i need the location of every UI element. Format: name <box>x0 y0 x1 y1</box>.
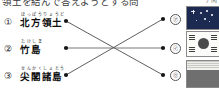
connector-lines <box>0 0 219 97</box>
left-node-2[interactable] <box>64 46 68 50</box>
left-node-3[interactable] <box>64 73 68 77</box>
right-node-3[interactable] <box>161 73 165 77</box>
left-node-1[interactable] <box>64 19 68 23</box>
right-node-1[interactable] <box>161 17 165 21</box>
right-node-2[interactable] <box>161 46 165 50</box>
worksheet-page: 領土を結んで答えようとする問 ア問 ① ほっぽうりょうど 北方領土 ② たけしま… <box>0 0 219 97</box>
